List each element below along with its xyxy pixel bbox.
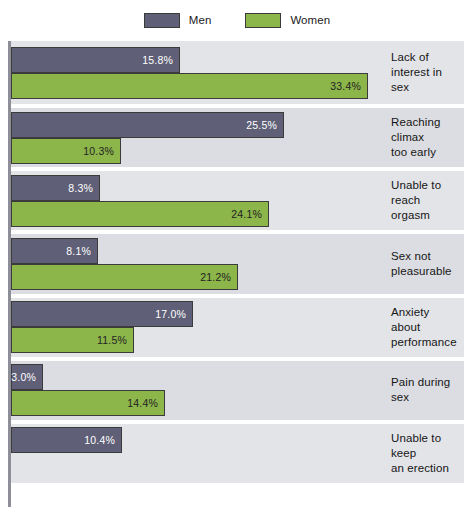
category-label: Sex notpleasurable <box>380 234 464 293</box>
chart-row: 8.3%24.1%Unable to reachorgasm <box>11 167 464 230</box>
bar-value-label: 17.0% <box>155 308 192 320</box>
bar-value-label: 8.1% <box>66 245 97 257</box>
chart-row: 25.5%10.3%Reaching climaxtoo early <box>11 104 464 167</box>
bar-chart: 15.8%33.4%Lack ofinterest in sex25.5%10.… <box>8 41 464 507</box>
bar-value-label: 15.8% <box>142 54 179 66</box>
legend-swatch-women <box>245 13 281 28</box>
chart-row: 8.1%21.2%Sex notpleasurable <box>11 230 464 293</box>
category-label-text: Unable to reachorgasm <box>391 178 458 223</box>
row-bars: 8.3%24.1% <box>11 171 380 230</box>
category-label-text: Anxiety aboutperformance <box>391 305 458 350</box>
row-bars: 25.5%10.3% <box>11 108 380 167</box>
category-label: Unable to reachorgasm <box>380 171 464 230</box>
category-label-text: Unable to keepan erection <box>391 431 458 476</box>
row-bars: 8.1%21.2% <box>11 234 380 293</box>
bar-women: 24.1% <box>11 201 269 227</box>
bar-value-label: 21.2% <box>200 271 237 283</box>
category-label-text: Reaching climaxtoo early <box>391 115 458 160</box>
bar-women: 21.2% <box>11 264 238 290</box>
bar-value-label: 3.0% <box>11 371 42 383</box>
row-bars: 3.0%14.4% <box>11 361 380 420</box>
category-label: Reaching climaxtoo early <box>380 108 464 167</box>
bar-value-label: 10.4% <box>84 434 121 446</box>
category-label: Unable to keepan erection <box>380 424 464 483</box>
category-label: Anxiety aboutperformance <box>380 298 464 357</box>
category-label-text: Pain during sex <box>391 375 458 405</box>
legend-label-men: Men <box>189 14 212 26</box>
bar-men: 10.4% <box>11 427 122 453</box>
legend-entry-women: Women <box>245 13 330 28</box>
category-label-text: Sex notpleasurable <box>391 249 452 279</box>
chart-row: 17.0%11.5%Anxiety aboutperformance <box>11 294 464 357</box>
row-bars: 15.8%33.4% <box>11 41 380 104</box>
chart-row: 15.8%33.4%Lack ofinterest in sex <box>11 41 464 104</box>
legend-label-women: Women <box>290 14 330 26</box>
legend-swatch-men <box>144 13 180 28</box>
legend-entry-men: Men <box>144 13 212 28</box>
chart-legend: Men Women <box>0 0 474 40</box>
row-bars: 17.0%11.5% <box>11 298 380 357</box>
bar-men: 8.3% <box>11 175 100 201</box>
bar-value-label: 11.5% <box>97 334 133 346</box>
chart-row: 3.0%14.4%Pain during sex <box>11 357 464 420</box>
bar-value-label: 14.4% <box>127 397 164 409</box>
bar-men: 15.8% <box>11 47 180 73</box>
bar-women: 33.4% <box>11 73 368 99</box>
category-label: Pain during sex <box>380 361 464 420</box>
chart-rows: 15.8%33.4%Lack ofinterest in sex25.5%10.… <box>11 41 464 507</box>
bar-women: 10.3% <box>11 138 121 164</box>
category-label-text: Lack ofinterest in sex <box>391 50 458 95</box>
category-label: Lack ofinterest in sex <box>380 41 464 104</box>
bar-men: 8.1% <box>11 238 98 264</box>
bar-women: 14.4% <box>11 390 165 416</box>
chart-row: 10.4%Unable to keepan erection <box>11 420 464 483</box>
row-bars: 10.4% <box>11 424 380 483</box>
bar-women-empty <box>11 453 380 479</box>
bar-value-label: 8.3% <box>68 182 99 194</box>
bar-value-label: 24.1% <box>231 208 268 220</box>
bar-value-label: 25.5% <box>246 119 283 131</box>
bar-women: 11.5% <box>11 327 134 353</box>
bar-value-label: 33.4% <box>330 80 367 92</box>
bar-men: 17.0% <box>11 301 193 327</box>
bar-men: 25.5% <box>11 112 284 138</box>
bar-value-label: 10.3% <box>83 145 120 157</box>
bar-men: 3.0% <box>11 364 43 390</box>
